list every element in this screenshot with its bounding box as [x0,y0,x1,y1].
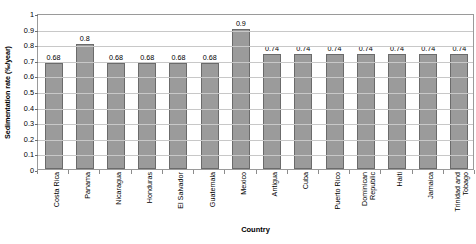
x-axis-category-labels: Costa RicaPanamaNicaraguaHondurasEl Salv… [37,172,474,220]
bar-value-label: 0.68 [47,53,61,62]
y-axis-tick-label: 0.7 [24,56,34,65]
gridline [38,62,473,63]
gridline [38,93,473,94]
bar[interactable] [326,54,344,169]
y-axis-tick-label: 0.5 [24,88,34,97]
gridline [38,77,473,78]
bar-value-label: 0.74 [390,44,404,53]
bar-slot: 0.74 [444,15,475,169]
y-axis-tick-mark [35,140,38,141]
y-axis-tick-labels: 10.90.80.70.60.50.40.30.20.10 [14,14,36,170]
x-axis-category-label-line: El Salvador [177,172,185,218]
bar-value-label: 0.74 [328,44,342,53]
y-axis-tick-label: 0.1 [24,150,34,159]
gridline [38,46,473,47]
y-axis-tick-label: 0 [30,166,34,175]
x-axis-category-label-line: Haiti [396,172,404,218]
x-axis-category-label-line: Republic [369,172,377,218]
bar-slot: 0.74 [257,15,288,169]
x-axis-category-label-line: Antigua [271,172,279,218]
gridline [38,140,473,141]
bar-slot: 0.68 [38,15,69,169]
bar-slot: 0.74 [381,15,412,169]
x-axis-category-label-line: Nicaragua [115,172,123,218]
bar-value-label: 0.68 [171,53,185,62]
bar-value-label: 0.74 [421,44,435,53]
x-axis-title: Country [37,225,474,234]
bar-value-label: 0.68 [203,53,217,62]
y-axis-tick-mark [35,77,38,78]
x-axis-category-label-line: Honduras [146,172,154,218]
bar-slot: 0.68 [163,15,194,169]
bar[interactable] [294,54,312,169]
y-axis-tick-label: 1 [30,10,34,19]
bar-slot: 0.68 [132,15,163,169]
bar[interactable] [169,63,187,169]
sedimentation-rate-bar-chart: Sedimentation rate (‰/year) 10.90.80.70.… [0,0,476,244]
bar-slot: 0.74 [288,15,319,169]
x-axis-category-label-line: Panama [84,172,92,218]
bar[interactable] [232,29,250,169]
bar-value-label: 0.8 [80,34,90,43]
y-axis-tick-mark [35,93,38,94]
gridline [38,109,473,110]
bar-slot: 0.68 [194,15,225,169]
y-axis-tick-label: 0.9 [24,25,34,34]
y-axis-tick-mark [35,46,38,47]
bar-slot: 0.74 [350,15,381,169]
y-axis-tick-label: 0.3 [24,119,34,128]
bar-value-label: 0.74 [359,44,373,53]
bar-value-label: 0.74 [265,44,279,53]
bar[interactable] [138,63,156,169]
x-axis-category-label-line: Puerto Rico [334,172,342,218]
x-axis-category-label-line: Cuba [302,172,310,218]
bar-slot: 0.74 [319,15,350,169]
gridline [38,155,473,156]
bar-value-label: 0.68 [140,53,154,62]
y-axis-tick-label: 0.8 [24,41,34,50]
y-axis-tick-label: 0.4 [24,103,34,112]
plot-area: 0.680.80.680.680.680.680.90.740.740.740.… [37,14,474,170]
x-axis-category-label-line: Costa Rica [53,172,61,218]
bar-slot: 0.74 [413,15,444,169]
x-axis-tick-mark [474,170,475,174]
bar-slot: 0.8 [69,15,100,169]
bar-slot: 0.9 [225,15,256,169]
y-axis-tick-mark [35,124,38,125]
y-axis-tick-mark [35,62,38,63]
x-axis-category-label-line: Jamaica [427,172,435,218]
bar-value-label: 0.74 [452,44,466,53]
y-axis-title-text: Sedimentation rate (‰/year) [3,46,12,139]
gridline [38,124,473,125]
bar[interactable] [45,63,63,169]
bar[interactable] [201,63,219,169]
bar-value-label: 0.74 [296,44,310,53]
bar[interactable] [419,54,437,169]
y-axis-title: Sedimentation rate (‰/year) [0,0,14,185]
y-axis-tick-mark [35,15,38,16]
gridline [38,31,473,32]
x-axis-category-label-line: Mexico [240,172,248,218]
y-axis-tick-mark [35,155,38,156]
bar-series: 0.680.80.680.680.680.680.90.740.740.740.… [38,15,473,169]
bar[interactable] [107,63,125,169]
y-axis-tick-label: 0.2 [24,134,34,143]
bar[interactable] [263,54,281,169]
bar-value-label: 0.9 [236,19,246,28]
bar-value-label: 0.68 [109,53,123,62]
x-axis-category-label-line: Guatemala [209,172,217,218]
bar[interactable] [388,54,406,169]
bar-slot: 0.68 [100,15,131,169]
x-axis-category-label-line: Tobago [462,172,470,218]
y-axis-tick-mark [35,31,38,32]
y-axis-tick-label: 0.6 [24,72,34,81]
bar[interactable] [450,54,468,169]
bar[interactable] [357,54,375,169]
y-axis-tick-mark [35,109,38,110]
